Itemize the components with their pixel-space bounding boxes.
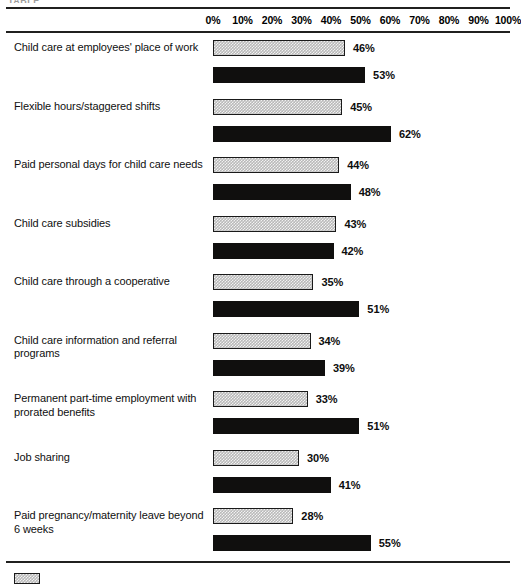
category-label: Paid personal days for child care needs [14, 158, 206, 172]
axis-tick-100: 100% [495, 13, 521, 27]
bar-series-a [213, 508, 293, 524]
category-label: Permanent part-time employment with pror… [14, 392, 206, 419]
axis-tick-row: 0%10%20%30%40%50%60%70%80%90%100% [205, 13, 513, 29]
bar-row: 55% [213, 535, 513, 551]
rule-bottom [6, 561, 510, 563]
category-label: Child care through a cooperative [14, 275, 206, 289]
bar-series-b [213, 184, 351, 200]
rule-top [6, 7, 510, 9]
axis-tick-50: 50% [350, 13, 370, 27]
bar-value-label: 44% [347, 157, 369, 173]
bar-row: 39% [213, 360, 513, 376]
bar-value-label: 42% [342, 243, 364, 259]
category-group: Child care information and referral prog… [0, 328, 518, 387]
category-group: Flexible hours/staggered shifts45%62% [0, 94, 518, 153]
bar-value-label: 43% [344, 216, 366, 232]
bar-row: 46% [213, 40, 513, 56]
bar-value-label: 62% [399, 126, 421, 142]
bar-value-label: 28% [301, 508, 323, 524]
bar-series-a [213, 157, 339, 173]
category-group: Paid personal days for child care needs4… [0, 152, 518, 211]
bar-series-b [213, 360, 325, 376]
axis-tick-80: 80% [439, 13, 459, 27]
bar-value-label: 41% [339, 477, 361, 493]
bar-value-label: 30% [307, 450, 329, 466]
bar-series-a [213, 450, 299, 466]
bar-row: 42% [213, 243, 513, 259]
category-group: Paid pregnancy/maternity leave beyond 6 … [0, 503, 518, 562]
axis-tick-70: 70% [409, 13, 429, 27]
bar-value-label: 51% [367, 418, 389, 434]
bar-value-label: 48% [359, 184, 381, 200]
category-label: Child care at employees' place of work [14, 41, 206, 55]
bar-series-a [213, 274, 313, 290]
axis-tick-40: 40% [321, 13, 341, 27]
bar-series-a [213, 216, 336, 232]
category-group: Permanent part-time employment with pror… [0, 386, 518, 445]
axis-tick-20: 20% [262, 13, 282, 27]
category-label: Child care information and referral prog… [14, 334, 206, 361]
category-label: Flexible hours/staggered shifts [14, 100, 206, 114]
legend [14, 573, 504, 585]
bar-series-b [213, 243, 334, 259]
bar-row: 41% [213, 477, 513, 493]
bar-series-a [213, 391, 308, 407]
bar-row: 34% [213, 333, 513, 349]
bar-series-a [213, 40, 345, 56]
bar-row: 62% [213, 126, 513, 142]
bar-series-b [213, 301, 359, 317]
bar-value-label: 34% [319, 333, 341, 349]
category-group: Child care through a cooperative35%51% [0, 269, 518, 328]
bar-value-label: 35% [321, 274, 343, 290]
bar-row: 51% [213, 418, 513, 434]
bar-series-b [213, 126, 391, 142]
bar-row: 28% [213, 508, 513, 524]
bar-value-label: 39% [333, 360, 355, 376]
bar-row: 30% [213, 450, 513, 466]
axis-tick-0: 0% [206, 13, 221, 27]
bar-row: 33% [213, 391, 513, 407]
bar-series-a [213, 333, 311, 349]
bar-series-b [213, 477, 331, 493]
axis-tick-30: 30% [291, 13, 311, 27]
bar-row: 44% [213, 157, 513, 173]
bar-series-b [213, 418, 359, 434]
bar-value-label: 46% [353, 40, 375, 56]
bar-series-b [213, 535, 371, 551]
caption-fragment: TABLE [8, 0, 40, 3]
bar-value-label: 53% [373, 67, 395, 83]
bar-row: 51% [213, 301, 513, 317]
bar-row: 48% [213, 184, 513, 200]
bar-value-label: 55% [379, 535, 401, 551]
bar-series-a [213, 99, 342, 115]
category-label: Job sharing [14, 451, 206, 465]
bar-row: 35% [213, 274, 513, 290]
category-label: Child care subsidies [14, 217, 206, 231]
axis-tick-60: 60% [380, 13, 400, 27]
axis-tick-90: 90% [468, 13, 488, 27]
category-group: Child care at employees' place of work46… [0, 35, 518, 94]
bar-series-b [213, 67, 365, 83]
light-hatched-swatch [14, 573, 40, 584]
category-group: Job sharing30%41% [0, 445, 518, 504]
bar-value-label: 51% [367, 301, 389, 317]
bar-row: 45% [213, 99, 513, 115]
bar-value-label: 45% [350, 99, 372, 115]
category-group: Child care subsidies43%42% [0, 211, 518, 270]
bar-row: 53% [213, 67, 513, 83]
bar-row: 43% [213, 216, 513, 232]
category-label: Paid pregnancy/maternity leave beyond 6 … [14, 509, 206, 536]
axis-tick-10: 10% [232, 13, 252, 27]
bar-value-label: 33% [316, 391, 338, 407]
plot-area: Child care at employees' place of work46… [0, 33, 518, 561]
